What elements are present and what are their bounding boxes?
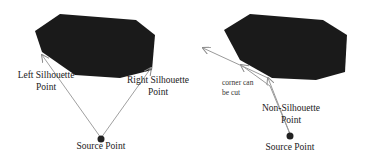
corner-cut-label: corner can be cut <box>222 78 253 98</box>
right-silhouette-label: Right Silhouette Point <box>126 74 190 98</box>
source-point-label-left: Source Point <box>71 140 131 152</box>
left-silhouette-label-line1: Left Silhouette <box>14 69 78 81</box>
right-silhouette-label-line1: Right Silhouette <box>126 74 190 86</box>
right-silhouette-label-line2: Point <box>126 86 190 98</box>
left-silhouette-label-line2: Point <box>14 81 78 93</box>
corner-cut-label-line1: corner can <box>222 78 253 88</box>
source-point-right <box>287 133 294 140</box>
corner-cut-label-line2: be cut <box>222 88 253 98</box>
left-silhouette-label: Left Silhouette Point <box>14 69 78 93</box>
non-silhouette-label-line2: Point <box>256 114 326 126</box>
non-silhouette-label-line1: Non-Silhouette <box>256 102 326 114</box>
obstacle-polygon-right <box>224 14 347 80</box>
non-silhouette-label: Non-Silhouette Point <box>256 102 326 126</box>
source-point-label-right: Source Point <box>260 141 320 153</box>
